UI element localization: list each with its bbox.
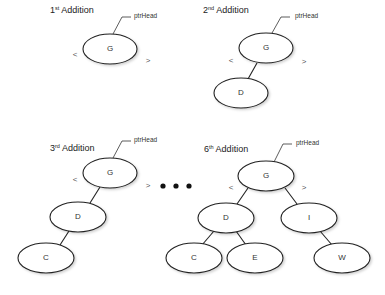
panel-1st-addition: 1st Addition ptrHead G < >	[50, 5, 158, 65]
node-label: D	[75, 212, 81, 221]
head-pointer-arrow	[113, 141, 131, 158]
less-than-label: <	[229, 183, 234, 192]
node-label: E	[252, 253, 257, 262]
greater-than-label: >	[302, 183, 307, 192]
node-label: C	[191, 253, 197, 262]
tree-edge	[248, 63, 257, 79]
less-than-label: <	[229, 56, 234, 65]
binary-tree-diagram: 1st Addition ptrHead G < > 2nd Addition …	[0, 0, 385, 295]
tree-edge	[202, 231, 214, 245]
tree-edge	[60, 231, 69, 245]
panel-2nd-addition: 2nd Addition ptrHead G D < >	[203, 5, 319, 108]
pointer-label: ptrHead	[295, 12, 319, 20]
head-pointer-arrow	[274, 144, 292, 162]
node-label: G	[107, 168, 113, 177]
node-label: W	[338, 253, 346, 262]
panel-title: 2nd Addition	[203, 5, 249, 15]
node-label: D	[238, 88, 244, 97]
greater-than-label: >	[302, 57, 307, 66]
panel-title: 1st Addition	[50, 5, 94, 15]
tree-edge	[285, 188, 297, 204]
tree-edge	[236, 231, 246, 245]
less-than-label: <	[73, 50, 78, 59]
greater-than-label: >	[146, 181, 151, 190]
head-pointer-arrow	[113, 17, 131, 34]
node-label: I	[308, 213, 310, 222]
panel-3rd-addition: 3rd Addition ptrHead G D C < >	[18, 136, 158, 273]
panel-title: 3rd Addition	[50, 143, 94, 153]
pointer-label: ptrHead	[296, 139, 320, 147]
head-pointer-arrow	[272, 17, 290, 33]
node-label: G	[263, 171, 269, 180]
pointer-label: ptrHead	[134, 136, 158, 144]
node-label: G	[263, 43, 269, 52]
less-than-label: <	[73, 175, 78, 184]
node-label: C	[43, 253, 49, 262]
node-label: D	[223, 213, 229, 222]
tree-edge	[320, 231, 332, 245]
ellipsis-icon	[160, 183, 191, 188]
panel-6th-addition: 6th Addition ptrHead G D I C E W < >	[166, 139, 370, 273]
greater-than-label: >	[146, 56, 151, 65]
pointer-label: ptrHead	[134, 12, 158, 20]
node-label: G	[107, 44, 113, 53]
panel-title: 6th Addition	[204, 144, 248, 154]
tree-edge	[90, 187, 100, 203]
tree-edge	[237, 188, 248, 204]
